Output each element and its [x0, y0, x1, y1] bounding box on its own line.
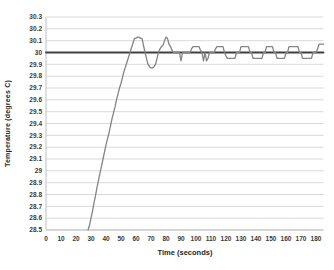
x-tick-label: 70: [147, 235, 155, 242]
x-tick-label: 10: [57, 235, 65, 242]
x-tick-label: 30: [87, 235, 95, 242]
y-tick-label: 28.7: [29, 203, 42, 210]
y-tick-label: 29.2: [29, 143, 42, 150]
temperature-chart: 30.330.230.13029.929.829.729.629.529.429…: [0, 0, 334, 270]
x-tick-label: 130: [236, 235, 247, 242]
y-tick-label: 28.6: [29, 214, 42, 221]
x-tick-label: 160: [281, 235, 292, 242]
series-measured-temperature: [88, 37, 324, 230]
x-tick-label: 140: [251, 235, 262, 242]
x-tick-label: 20: [72, 235, 80, 242]
x-tick-label: 120: [221, 235, 232, 242]
y-tick-label: 28.5: [29, 226, 42, 233]
y-tick-label: 30: [35, 49, 43, 56]
y-tick-label: 29.1: [29, 155, 42, 162]
y-tick-label: 29.7: [29, 84, 42, 91]
x-tick-label: 180: [311, 235, 322, 242]
y-tick-label: 30.2: [29, 25, 42, 32]
y-tick-label: 29.6: [29, 96, 42, 103]
x-tick-label: 90: [177, 235, 185, 242]
x-tick-label: 60: [132, 235, 140, 242]
x-tick-label: 50: [117, 235, 125, 242]
y-tick-label: 29.4: [29, 120, 42, 127]
y-tick-label: 29.9: [29, 61, 42, 68]
x-tick-label: 150: [266, 235, 277, 242]
y-tick-label: 28.9: [29, 179, 42, 186]
y-axis-title: Temperature (degrees C): [1, 17, 13, 230]
y-tick-label: 29.5: [29, 108, 42, 115]
y-tick-label: 30.1: [29, 37, 42, 44]
x-tick-label: 100: [191, 235, 202, 242]
x-tick-label: 80: [162, 235, 170, 242]
y-tick-label: 29.3: [29, 132, 42, 139]
x-tick-label: 110: [206, 235, 217, 242]
y-tick-label: 29.8: [29, 72, 42, 79]
y-tick-label: 30.3: [29, 13, 42, 20]
x-tick-label: 40: [102, 235, 110, 242]
plot-area: 30.330.230.13029.929.829.729.629.529.429…: [0, 0, 334, 270]
y-tick-label: 29: [35, 167, 43, 174]
x-axis-title: Time (seconds): [46, 248, 324, 257]
y-tick-label: 28.8: [29, 191, 42, 198]
x-tick-label: 170: [296, 235, 307, 242]
x-tick-label: 0: [44, 235, 48, 242]
